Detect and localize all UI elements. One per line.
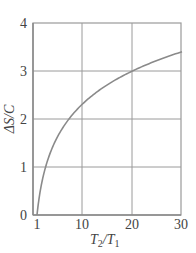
y-tick-3: 3	[20, 64, 27, 79]
y-axis-label: ΔS/C	[2, 104, 17, 134]
y-tick-2: 2	[20, 112, 27, 127]
x-tick-labels: 1 10 20 30	[34, 217, 189, 232]
x-tick-20: 20	[125, 217, 139, 232]
y-tick-4: 4	[20, 16, 27, 31]
x-axis-label: T2/T1	[90, 232, 119, 249]
chart-canvas: 0 1 2 3 4 1 10 20 30 T2/T1 ΔS/C	[0, 0, 196, 253]
y-tick-labels: 0 1 2 3 4	[20, 16, 27, 223]
y-tick-0: 0	[20, 208, 27, 223]
x-tick-1: 1	[34, 217, 41, 232]
data-series-curve	[37, 52, 182, 215]
x-tick-30: 30	[174, 217, 188, 232]
y-tick-1: 1	[20, 160, 27, 175]
x-tick-10: 10	[75, 217, 89, 232]
